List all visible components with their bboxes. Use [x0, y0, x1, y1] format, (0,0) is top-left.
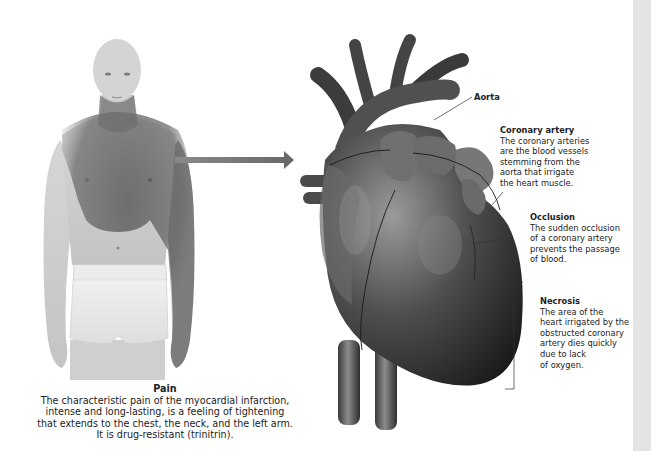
label-aorta: Aorta: [474, 92, 500, 103]
pain-caption: Pain The characteristic pain of the myoc…: [0, 383, 330, 441]
arrow-pointer: [175, 151, 294, 169]
pain-caption-title: Pain: [0, 383, 330, 395]
label-occlusion: Occlusion The sudden occlusion of a coro…: [530, 212, 632, 265]
label-aorta-title: Aorta: [474, 92, 500, 103]
pain-caption-text: The characteristic pain of the myocardia…: [0, 395, 330, 441]
diagram-canvas: Aorta Coronary artery The coronary arter…: [0, 0, 633, 451]
label-necrosis: Necrosis The area of the heart irrigated…: [540, 296, 633, 370]
label-coronary-artery: Coronary artery The coronary arteries ar…: [500, 125, 630, 189]
scrollbar-track[interactable]: [633, 0, 651, 451]
label-necrosis-title: Necrosis: [540, 296, 633, 307]
label-necrosis-text: The area of the heart irrigated by the o…: [540, 307, 633, 371]
label-coronary-artery-text: The coronary arteries are the blood vess…: [500, 136, 630, 189]
label-occlusion-title: Occlusion: [530, 212, 632, 223]
label-occlusion-text: The sudden occlusion of a coronary arter…: [530, 223, 632, 265]
human-figure: [44, 39, 195, 380]
label-coronary-artery-title: Coronary artery: [500, 125, 630, 136]
